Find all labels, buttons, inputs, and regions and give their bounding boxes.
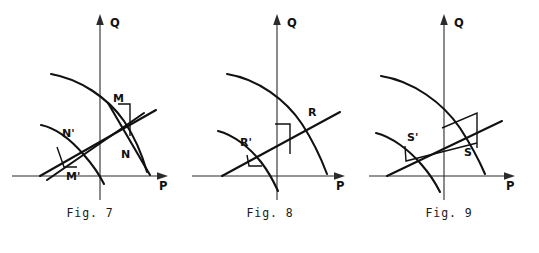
figure-panel-fig9: Q P S S' Fig. 9 bbox=[359, 0, 539, 253]
figure-diagram-fig8: Q P R R' bbox=[180, 0, 360, 200]
point-label-r-prime-fig8: R' bbox=[240, 136, 252, 149]
axis-label-p-fig9: P bbox=[506, 179, 514, 193]
p-axis-fig7 bbox=[12, 172, 168, 180]
point-label-m-prime-fig7: M' bbox=[66, 170, 80, 183]
budget-line-lower-fig7 bbox=[40, 110, 156, 176]
point-label-s-fig9: S bbox=[464, 146, 472, 159]
axis-label-p-fig8: P bbox=[336, 179, 344, 193]
figure-diagram-fig9: Q P S S' bbox=[359, 0, 539, 200]
figure-sheet: Q P M N N' M' Fig. 7 bbox=[0, 0, 539, 253]
q-axis-fig8 bbox=[273, 14, 281, 200]
figure-diagram-fig7: Q P M N N' M' bbox=[0, 0, 180, 200]
axis-label-q-fig8: Q bbox=[287, 16, 297, 30]
figure-caption-fig8: Fig. 8 bbox=[180, 206, 360, 220]
point-label-m-fig7: M bbox=[113, 92, 124, 105]
figure-panel-fig7: Q P M N N' M' Fig. 7 bbox=[0, 0, 180, 253]
point-label-n-prime-fig7: N' bbox=[62, 127, 75, 140]
concave-arc-fig9 bbox=[381, 76, 485, 174]
figure-caption-fig7: Fig. 7 bbox=[0, 206, 180, 220]
axis-label-q-fig7: Q bbox=[110, 16, 120, 30]
figure-panel-fig8: Q P R R' Fig. 8 bbox=[180, 0, 360, 253]
figure-caption-fig9: Fig. 9 bbox=[359, 206, 539, 220]
angle-marker-s-fig9 bbox=[442, 113, 477, 148]
point-label-r-fig8: R bbox=[308, 106, 317, 119]
axis-label-q-fig9: Q bbox=[454, 16, 464, 30]
point-label-n-fig7: N bbox=[121, 148, 130, 161]
point-label-s-prime-fig9: S' bbox=[407, 131, 418, 144]
axis-label-p-fig7: P bbox=[159, 179, 167, 193]
